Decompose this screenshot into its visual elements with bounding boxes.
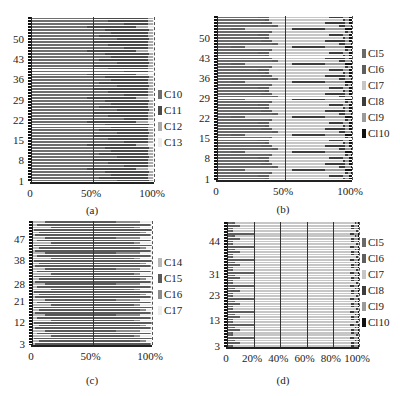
bar-segment-Cl8: [329, 87, 342, 89]
bar-segment-Cl8: [329, 157, 342, 159]
bar-segment-Cl8: [339, 43, 346, 45]
bar-segment-Cl6: [272, 25, 279, 27]
bar-segment-C12: [136, 26, 148, 28]
bar-segment-Cl8: [292, 151, 326, 153]
bar-segment-Cl7: [255, 324, 349, 326]
legend-label: Cl8: [368, 95, 384, 107]
bar-segment-Cl6: [229, 277, 239, 279]
bar-segment-Cl7: [235, 222, 356, 224]
bar-segment-C10: [32, 41, 93, 43]
bar-segment-C11: [93, 135, 148, 137]
y-tick-label: 47: [5, 234, 25, 245]
bar-segment-C15: [39, 278, 140, 280]
bar-segment-Cl5: [218, 81, 231, 83]
bar-segment-Cl5: [218, 166, 272, 168]
bar-segment-Cl7: [235, 275, 356, 277]
bar-segment-Cl5: [218, 151, 231, 153]
bar-row: [228, 319, 359, 321]
legend-label: Cl8: [368, 284, 384, 296]
legend-item-Cl7: Cl7: [362, 266, 389, 282]
y-tick-label: 13: [200, 315, 220, 326]
plot-area-d: [226, 222, 359, 349]
bar-segment-Cl6: [258, 140, 269, 142]
bar-segment-Cl5: [218, 43, 272, 45]
bar-segment-C16: [116, 283, 140, 285]
bar-segment-C11: [105, 76, 149, 78]
bar-segment-Cl6: [229, 303, 239, 305]
bar-segment-Cl5: [218, 69, 258, 71]
bar-segment-C10: [32, 138, 108, 140]
bar-segment-C11: [87, 97, 136, 99]
bar-row: [228, 290, 359, 292]
bar-segment-Cl6: [229, 324, 255, 326]
bar-segment-C10: [32, 85, 117, 87]
bar-segment-Cl5: [218, 169, 231, 171]
bar-row: [228, 301, 359, 303]
bar-segment-Cl7: [233, 230, 356, 232]
bar-segment-C10: [32, 156, 117, 158]
bar-segment-C14: [33, 304, 51, 306]
bar-segment-Cl7: [278, 113, 338, 115]
bar-segment-C14: [33, 330, 45, 332]
y-axis-ticks: [28, 17, 31, 182]
bar-segment-Cl6: [272, 78, 279, 80]
gridline: [254, 222, 255, 347]
bar-row: [228, 308, 359, 310]
bar-segment-Cl8: [329, 69, 342, 71]
bar-segment-Cl7: [255, 337, 349, 339]
bar-row: [228, 311, 359, 313]
bar-segment-Cl7: [233, 269, 356, 271]
bar-segment-Cl8: [339, 166, 346, 168]
bar-segment-C14: [33, 268, 45, 270]
bar-segment-C11: [93, 159, 148, 161]
bar-segment-Cl9: [343, 52, 350, 54]
bar-segment-Cl7: [235, 301, 356, 303]
legend-label: Cl7: [368, 268, 384, 280]
bar-segment-Cl8: [329, 52, 342, 54]
bar-row: [228, 324, 359, 326]
bar-segment-Cl8: [325, 128, 345, 130]
bar-segment-Cl5: [218, 113, 272, 115]
bar-segment-C10: [32, 35, 99, 37]
bar-segment-Cl9: [343, 87, 350, 89]
bar-row: [228, 262, 359, 264]
bar-segment-Cl8: [292, 63, 326, 65]
bar-segment-C11: [93, 112, 148, 114]
bar-segment-Cl7: [269, 52, 329, 54]
x-tick-label: 40%: [268, 353, 288, 364]
bar-segment-Cl5: [218, 93, 261, 95]
bar-segment-C10: [32, 112, 93, 114]
bar-segment-Cl7: [240, 264, 351, 266]
bar-segment-Cl5: [218, 101, 269, 103]
x-tick-label: 0: [213, 186, 219, 197]
y-tick-label: 15: [4, 135, 24, 146]
bar-segment-C11: [111, 103, 148, 105]
bar-segment-Cl6: [272, 96, 279, 98]
bar-segment-Cl9: [343, 122, 350, 124]
bar-row: [228, 337, 359, 339]
bar-segment-C10: [32, 74, 87, 76]
x-tick-label: 60%: [295, 353, 315, 364]
bar-segment-Cl9: [325, 134, 345, 136]
bar-segment-Cl6: [258, 69, 269, 71]
bar-segment-C14: [33, 221, 45, 223]
bar-segment-C11: [99, 129, 148, 131]
bar-segment-C14: [33, 242, 51, 244]
x-tick-label: 100%: [139, 188, 165, 199]
y-tick-label: 23: [200, 290, 220, 301]
bar-segment-C10: [32, 135, 93, 137]
bar-segment-Cl7: [255, 233, 349, 235]
bar-row: [228, 288, 359, 290]
bar-segment-Cl6: [231, 46, 244, 48]
bar-row: [228, 277, 359, 279]
bar-row: [228, 259, 359, 261]
bar-segment-Cl5: [218, 142, 265, 144]
bar-segment-Cl7: [269, 37, 343, 39]
bar-segment-Cl7: [272, 163, 326, 165]
bar-segment-C10: [32, 68, 108, 70]
bar-segment-Cl7: [240, 225, 351, 227]
bar-segment-Cl5: [218, 96, 272, 98]
bar-segment-Cl7: [272, 22, 326, 24]
bar-segment-C11: [87, 144, 136, 146]
bar-segment-C11: [111, 127, 148, 129]
